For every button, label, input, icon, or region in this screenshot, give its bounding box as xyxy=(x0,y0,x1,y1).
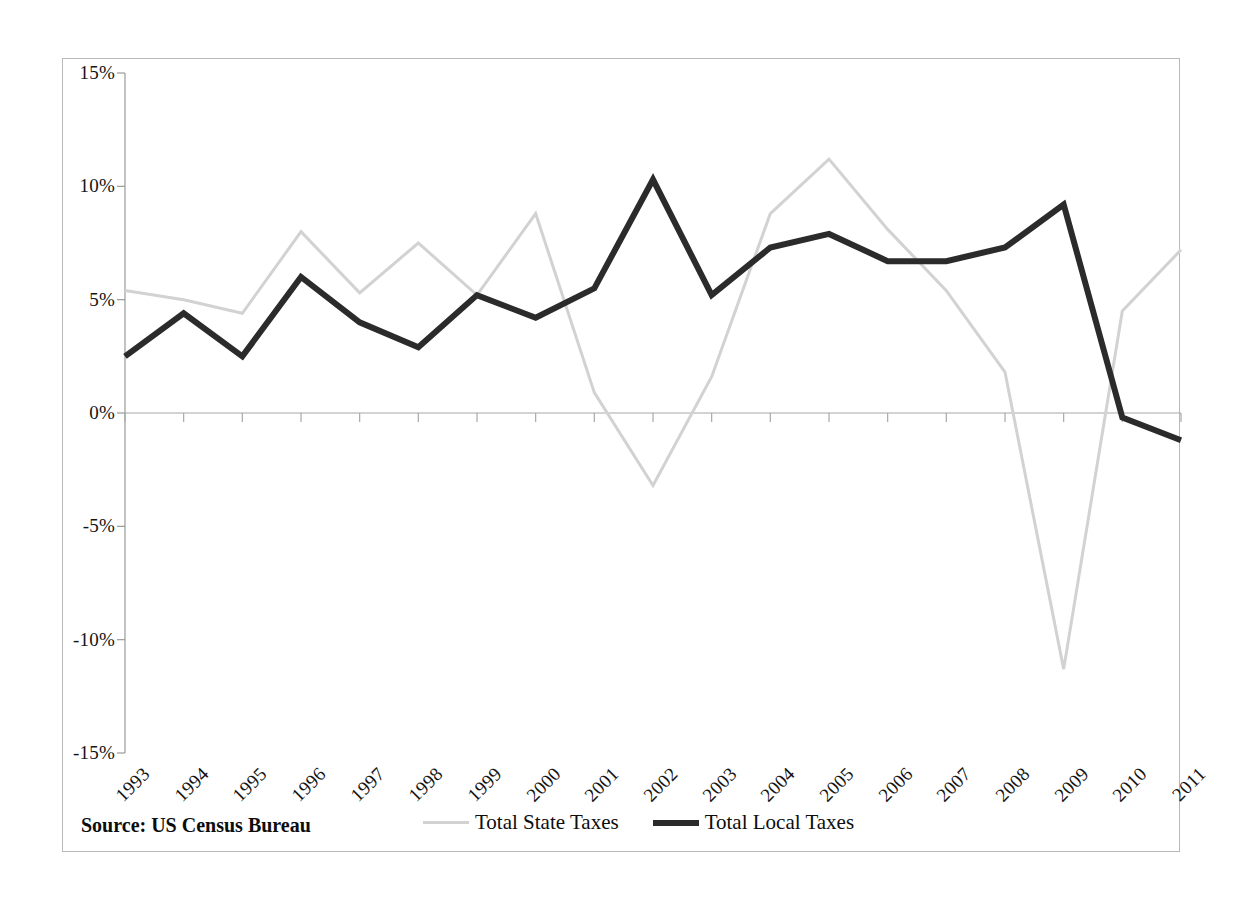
line-chart-svg xyxy=(125,73,1181,753)
x-axis-tick-label: 1998 xyxy=(405,763,448,806)
x-axis-tick-label: 2000 xyxy=(522,763,565,806)
x-axis-tick-label: 1993 xyxy=(111,763,154,806)
source-note: Source: US Census Bureau xyxy=(81,814,311,837)
x-axis-tick-label: 2005 xyxy=(815,763,858,806)
x-axis-tick-label: 2011 xyxy=(1168,763,1211,806)
plot-area xyxy=(125,73,1181,753)
legend-label-local: Total Local Taxes xyxy=(705,810,854,835)
x-axis-tick-label: 1997 xyxy=(346,763,389,806)
y-axis-tick-label: -10% xyxy=(73,629,115,651)
legend-item-total-local-taxes: Total Local Taxes xyxy=(653,810,854,835)
x-axis-tick-label: 2007 xyxy=(933,763,976,806)
chart-figure: 15%10%5%0%-5%-10%-15% 199319941995199619… xyxy=(62,58,1180,852)
x-axis-tick-label: 2010 xyxy=(1109,763,1152,806)
y-axis-tick-label: 15% xyxy=(80,62,115,84)
x-axis-tick-label: 2004 xyxy=(757,763,800,806)
x-axis-tick-label: 2009 xyxy=(1050,763,1093,806)
x-axis-tick-label: 1994 xyxy=(170,763,213,806)
y-axis-tick-label: 5% xyxy=(89,289,115,311)
legend-swatch-state-line xyxy=(423,821,469,824)
x-axis-tick-label: 1995 xyxy=(229,763,272,806)
x-axis-tick-label: 2006 xyxy=(874,763,917,806)
series-line-total-local-taxes xyxy=(125,180,1181,441)
x-axis-tick-label: 2001 xyxy=(581,763,624,806)
y-axis-tick-label: -5% xyxy=(83,515,115,537)
x-axis-tick-label: 1996 xyxy=(287,763,330,806)
x-axis-tick-label: 2003 xyxy=(698,763,741,806)
y-axis-labels: 15%10%5%0%-5%-10%-15% xyxy=(63,73,115,753)
x-axis-tick-label: 1999 xyxy=(463,763,506,806)
legend-label-state: Total State Taxes xyxy=(475,810,619,835)
y-axis-tick-label: 10% xyxy=(80,175,115,197)
y-axis-tick-label: 0% xyxy=(89,402,115,424)
x-axis-tick-label: 2002 xyxy=(639,763,682,806)
legend-item-total-state-taxes: Total State Taxes xyxy=(423,810,619,835)
y-axis-tick-label: -15% xyxy=(73,742,115,764)
x-axis-tick-label: 2008 xyxy=(991,763,1034,806)
legend-swatch-local-line xyxy=(653,820,699,826)
chart-legend: Total State Taxes Total Local Taxes xyxy=(423,810,854,835)
